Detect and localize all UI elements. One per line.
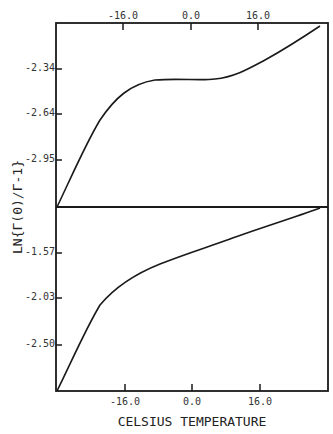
lower-y-tick-label: -2.03 — [25, 291, 55, 302]
x-axis-title: CELSIUS TEMPERATURE — [118, 414, 267, 429]
bottom-x-axis: -16.0 0.0 16.0 — [110, 384, 272, 407]
upper-y-tick-label: -2.95 — [25, 153, 55, 164]
top-x-axis: -16.0 0.0 16.0 — [108, 10, 270, 30]
bottom-x-tick-label: 16.0 — [248, 396, 272, 407]
lower-y-tick-label: -2.50 — [25, 338, 55, 349]
top-x-tick-label: -16.0 — [108, 10, 138, 21]
lower-y-tick-label: -1.57 — [25, 246, 55, 257]
y-axis-title: LN{Γ(0)/Γ-1} — [10, 160, 25, 254]
top-x-tick-label: 0.0 — [182, 10, 200, 21]
upper-y-tick-label: -2.64 — [25, 107, 55, 118]
upper-y-tick-label: -2.34 — [25, 62, 55, 73]
chart-canvas: -16.0 0.0 16.0 -16.0 0.0 16.0 -2.34 -2.6… — [0, 0, 333, 434]
lower-curve — [57, 208, 320, 391]
bottom-x-tick-label: -16.0 — [110, 396, 140, 407]
top-x-tick-label: 16.0 — [246, 10, 270, 21]
upper-curve — [57, 26, 320, 207]
bottom-x-tick-label: 0.0 — [183, 396, 201, 407]
